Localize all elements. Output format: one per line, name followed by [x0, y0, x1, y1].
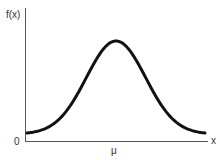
density-curve — [27, 41, 205, 133]
normal-distribution-chart: f(x) 0 x μ — [0, 0, 220, 161]
chart-canvas — [0, 0, 220, 161]
mean-tick-label: μ — [111, 146, 117, 156]
y-axis-label: f(x) — [6, 10, 20, 20]
origin-label: 0 — [14, 137, 20, 147]
x-axis-label: x — [211, 136, 216, 146]
